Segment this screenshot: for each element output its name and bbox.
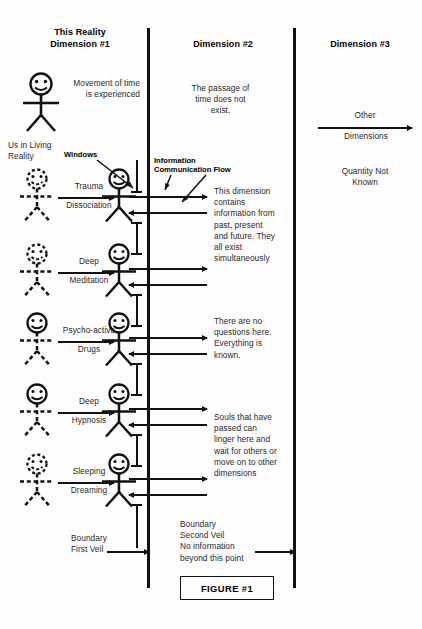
- boundary-arrow-second-veil: [255, 551, 295, 553]
- column-title-dimension-3: Dimension #3: [305, 39, 415, 51]
- flow-arrow-in-3: [129, 353, 207, 355]
- flow-arrow-out-2: [129, 268, 207, 270]
- label-other-dimensions-top: Other: [320, 110, 410, 121]
- label-movement-of-time: Movement of time is experienced: [55, 78, 140, 100]
- divider-dimension-1-2: [147, 28, 150, 588]
- diagram-canvas: This Reality Dimension #1 Dimension #2 D…: [0, 0, 422, 629]
- flow-arrow-in-5: [129, 494, 207, 496]
- arrow-other-dimensions: [318, 127, 412, 129]
- stick-figure-dashed-row-5: [16, 453, 58, 509]
- flow-arrow-out-3: [129, 337, 207, 339]
- label-dimension2-no-questions: There are no questions here. Everything …: [214, 316, 294, 361]
- boundary-arrow-first-veil: [107, 551, 149, 553]
- stick-figure-solid-row-3: [98, 312, 140, 368]
- label-boundary-second-veil: Boundary Second Veil No information beyo…: [180, 519, 290, 564]
- stick-figure-dashed-row-1: [16, 168, 58, 224]
- label-other-dimensions-bottom: Dimensions: [318, 131, 414, 142]
- stick-figure-solid-row-4: [98, 383, 140, 439]
- label-quantity-not-known: Quantity Not Known: [315, 166, 415, 188]
- window-icon-1: [131, 160, 142, 193]
- info-flow-annotation-arrows: [160, 174, 220, 210]
- label-dimension2-contains-info: This dimension contains information from…: [214, 186, 294, 264]
- stick-figure-solid-row-5: [98, 453, 140, 509]
- divider-dimension-2-3: [293, 28, 296, 588]
- stick-figure-dashed-row-4: [16, 383, 58, 439]
- flow-arrow-in-2: [129, 284, 207, 286]
- flow-arrow-out-1: [129, 196, 207, 198]
- flow-arrow-out-4: [129, 408, 207, 410]
- label-passage-of-time: The passage of time does not exist.: [163, 83, 278, 117]
- column-title-dimension-2: Dimension #2: [163, 39, 283, 51]
- flow-arrow-in-1: [129, 212, 207, 214]
- flow-arrow-in-4: [129, 424, 207, 426]
- stick-figure-solid-row-2: [98, 243, 140, 299]
- column-title-dimension-1: This Reality Dimension #1: [20, 27, 140, 50]
- stick-figure-dashed-row-3: [16, 312, 58, 368]
- stick-figure-dashed-row-2: [16, 243, 58, 299]
- label-information-communication-flow: Information Communication Flow: [154, 156, 259, 175]
- label-dimension2-souls: Souls that have passed can linger here a…: [214, 412, 298, 479]
- flow-arrow-out-5: [129, 478, 207, 480]
- figure-caption-box: FIGURE #1: [180, 576, 274, 600]
